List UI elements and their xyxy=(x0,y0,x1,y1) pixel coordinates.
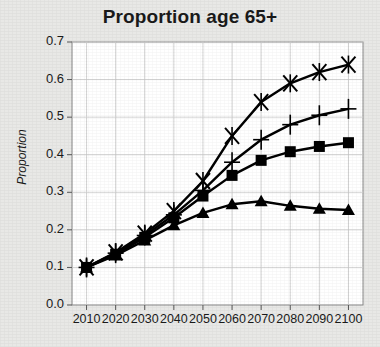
plot-area xyxy=(0,0,380,347)
x-tick-label: 2100 xyxy=(328,312,368,326)
y-tick-label: 0.3 xyxy=(24,183,64,198)
y-tick-label: 0.2 xyxy=(24,221,64,236)
y-tick-label: 0.1 xyxy=(24,258,64,273)
y-tick-label: 0.7 xyxy=(24,33,64,48)
y-tick-label: 0.5 xyxy=(24,108,64,123)
y-tick-label: 0.0 xyxy=(24,296,64,311)
chart-figure: Proportion age 65+ Proportion 0.00.10.20… xyxy=(0,0,380,347)
y-tick-label: 0.6 xyxy=(24,71,64,86)
y-tick-label: 0.4 xyxy=(24,146,64,161)
